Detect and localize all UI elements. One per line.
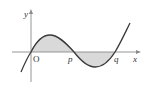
shaded-region-positive	[31, 35, 74, 52]
y-axis-arrow-icon	[29, 9, 33, 14]
q-label: q	[114, 54, 119, 64]
graph-svg: y O p q x	[0, 0, 148, 88]
p-label: p	[67, 54, 73, 64]
y-axis-label: y	[23, 9, 28, 19]
origin-label: O	[33, 54, 40, 64]
x-axis-label: x	[132, 54, 137, 64]
cubic-graph-figure: y O p q x	[0, 0, 148, 88]
